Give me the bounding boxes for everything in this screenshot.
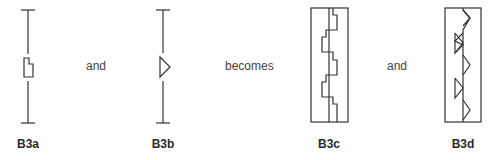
triangle-right-3 — [463, 100, 470, 120]
step-right-2 — [329, 52, 337, 75]
figure-b3a — [21, 10, 35, 123]
notched-block-icon — [24, 58, 33, 77]
diagram-canvas — [0, 0, 498, 160]
figure-b3c — [311, 8, 348, 122]
figure-b3b — [156, 10, 170, 123]
triangle-left-1 — [455, 33, 463, 53]
step-left-2 — [322, 75, 329, 97]
figure-label: B3d — [452, 137, 475, 151]
connector-text: and — [387, 59, 407, 73]
figure-b3d — [445, 8, 481, 122]
connector-text: and — [86, 59, 106, 73]
triangle-right-2 — [463, 55, 470, 75]
triangle-icon — [160, 57, 170, 77]
figure-label: B3c — [318, 137, 340, 151]
figure-label: B3a — [17, 137, 39, 151]
step-right-3 — [329, 97, 337, 122]
connector-text: becomes — [225, 59, 274, 73]
step-right-1 — [329, 8, 337, 30]
step-left-1 — [322, 30, 329, 52]
figure-label: B3b — [152, 137, 175, 151]
triangle-left-2-outline — [455, 78, 463, 98]
